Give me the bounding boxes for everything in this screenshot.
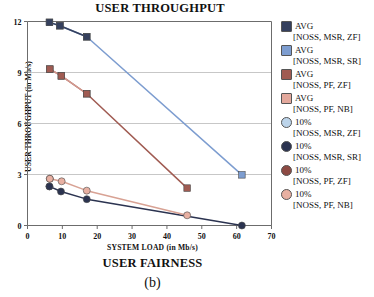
data-point-circle — [83, 187, 90, 194]
x-tick-label: 30 — [128, 232, 136, 241]
legend-series-name: 10% — [295, 117, 312, 128]
data-point-square — [47, 66, 54, 73]
legend-series-name: AVG — [295, 93, 313, 104]
x-tick-label: 20 — [93, 232, 101, 241]
legend-series-config: [NOSS, PF, NB] — [293, 104, 374, 116]
legend-series-config: [NOSS, PF, ZF] — [293, 80, 374, 92]
y-tick-label: 3 — [18, 171, 22, 180]
legend-series-name: AVG — [295, 45, 313, 56]
data-point-circle — [58, 178, 65, 185]
x-axis-label: SYSTEM LOAD (in Mb/s) — [25, 243, 280, 252]
series-line — [49, 186, 241, 225]
legend-item[interactable]: 10%[NOSS, MSR, SR] — [281, 140, 374, 164]
data-point-circle — [238, 222, 245, 229]
x-tick-label: 70 — [268, 232, 276, 241]
legend-marker-circle-icon — [281, 141, 292, 152]
legend-item[interactable]: AVG[NOSS, MSR, ZF] — [281, 20, 374, 44]
y-tick-label: 12 — [14, 18, 22, 27]
data-point-square — [46, 19, 53, 26]
series-line — [49, 22, 86, 36]
legend-marker-square-icon — [281, 69, 292, 80]
series-line — [50, 69, 187, 188]
y-tick-label: 0 — [18, 222, 22, 231]
legend-series-config: [NOSS, PF, ZF] — [293, 176, 374, 188]
legend-item[interactable]: AVG[NOSS, PF, NB] — [281, 92, 374, 116]
legend-item[interactable]: 10%[NOSS, MSR, ZF] — [281, 116, 374, 140]
data-point-square — [83, 90, 90, 97]
data-point-circle — [184, 212, 191, 219]
legend-item[interactable]: 10%[NOSS, PF, NB] — [281, 188, 374, 212]
data-point-square — [239, 172, 246, 179]
legend-series-name: 10% — [295, 189, 312, 200]
data-point-square — [58, 73, 65, 80]
y-tick-label: 6 — [18, 120, 22, 129]
legend-item[interactable]: AVG[NOSS, MSR, SR] — [281, 44, 374, 68]
data-point-circle — [46, 175, 53, 182]
legend-series-config: [NOSS, MSR, ZF] — [293, 128, 374, 140]
series-line — [49, 22, 241, 174]
legend-item[interactable]: AVG[NOSS, PF, ZF] — [281, 68, 374, 92]
figure-container: USER THROUGHPUT USER THROUGHPUT (in Mb/s… — [0, 0, 374, 297]
legend-marker-square-icon — [281, 21, 292, 32]
legend-series-config: [NOSS, MSR, SR] — [293, 152, 374, 164]
legend-series-name: 10% — [295, 165, 312, 176]
legend-series-name: AVG — [295, 69, 313, 80]
data-point-square — [83, 34, 90, 41]
data-point-circle — [57, 188, 64, 195]
y-tick-label: 9 — [18, 69, 22, 78]
legend-marker-circle-icon — [281, 117, 292, 128]
legend-marker-square-icon — [281, 93, 292, 104]
x-tick-label: 40 — [163, 232, 171, 241]
x-tick-label: 50 — [198, 232, 206, 241]
data-point-square — [57, 22, 64, 29]
legend-series-config: [NOSS, PF, NB] — [293, 200, 374, 212]
data-point-circle — [46, 183, 53, 190]
x-tick-label: 60 — [233, 232, 241, 241]
chart-legend: AVG[NOSS, MSR, ZF]AVG[NOSS, MSR, SR]AVG[… — [281, 20, 374, 212]
legend-series-config: [NOSS, MSR, SR] — [293, 56, 374, 68]
x-tick-label: 10 — [58, 232, 66, 241]
legend-item[interactable]: 10%[NOSS, PF, ZF] — [281, 164, 374, 188]
data-point-circle — [83, 196, 90, 203]
legend-marker-square-icon — [281, 45, 292, 56]
legend-marker-circle-icon — [281, 189, 292, 200]
legend-marker-circle-icon — [281, 165, 292, 176]
series-line — [50, 179, 187, 216]
legend-series-name: 10% — [295, 141, 312, 152]
x-tick-label: 0 — [26, 232, 30, 241]
sub-caption: USER FAIRNESS — [25, 256, 280, 271]
figure-label: (b) — [25, 275, 280, 291]
data-point-square — [184, 185, 191, 192]
legend-series-config: [NOSS, MSR, ZF] — [293, 32, 374, 44]
legend-series-name: AVG — [295, 21, 313, 32]
